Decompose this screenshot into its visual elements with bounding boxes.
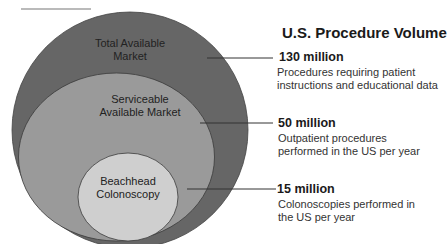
tam-label-line1: Total Available xyxy=(70,37,190,50)
page-title: U.S. Procedure Volume xyxy=(282,24,447,41)
beachhead-label-line2: Colonoscopy xyxy=(78,188,178,201)
sam-description: Outpatient procedures performed in the U… xyxy=(278,132,428,158)
beachhead-value: 15 million xyxy=(277,182,335,196)
beachhead-label-line1: Beachhead xyxy=(78,175,178,188)
beachhead-description: Colonoscopies performed in the US per ye… xyxy=(278,198,418,224)
sam-label: Serviceable Available Market xyxy=(75,93,205,119)
beachhead-label: Beachhead Colonoscopy xyxy=(78,175,178,201)
tam-label: Total Available Market xyxy=(70,37,190,63)
sam-value: 50 million xyxy=(278,116,336,130)
tam-value: 130 million xyxy=(279,50,344,64)
sam-label-line1: Serviceable xyxy=(75,93,205,106)
tam-description: Procedures requiring patient instruction… xyxy=(277,66,447,92)
tam-label-line2: Market xyxy=(70,50,190,63)
sam-label-line2: Available Market xyxy=(75,106,205,119)
